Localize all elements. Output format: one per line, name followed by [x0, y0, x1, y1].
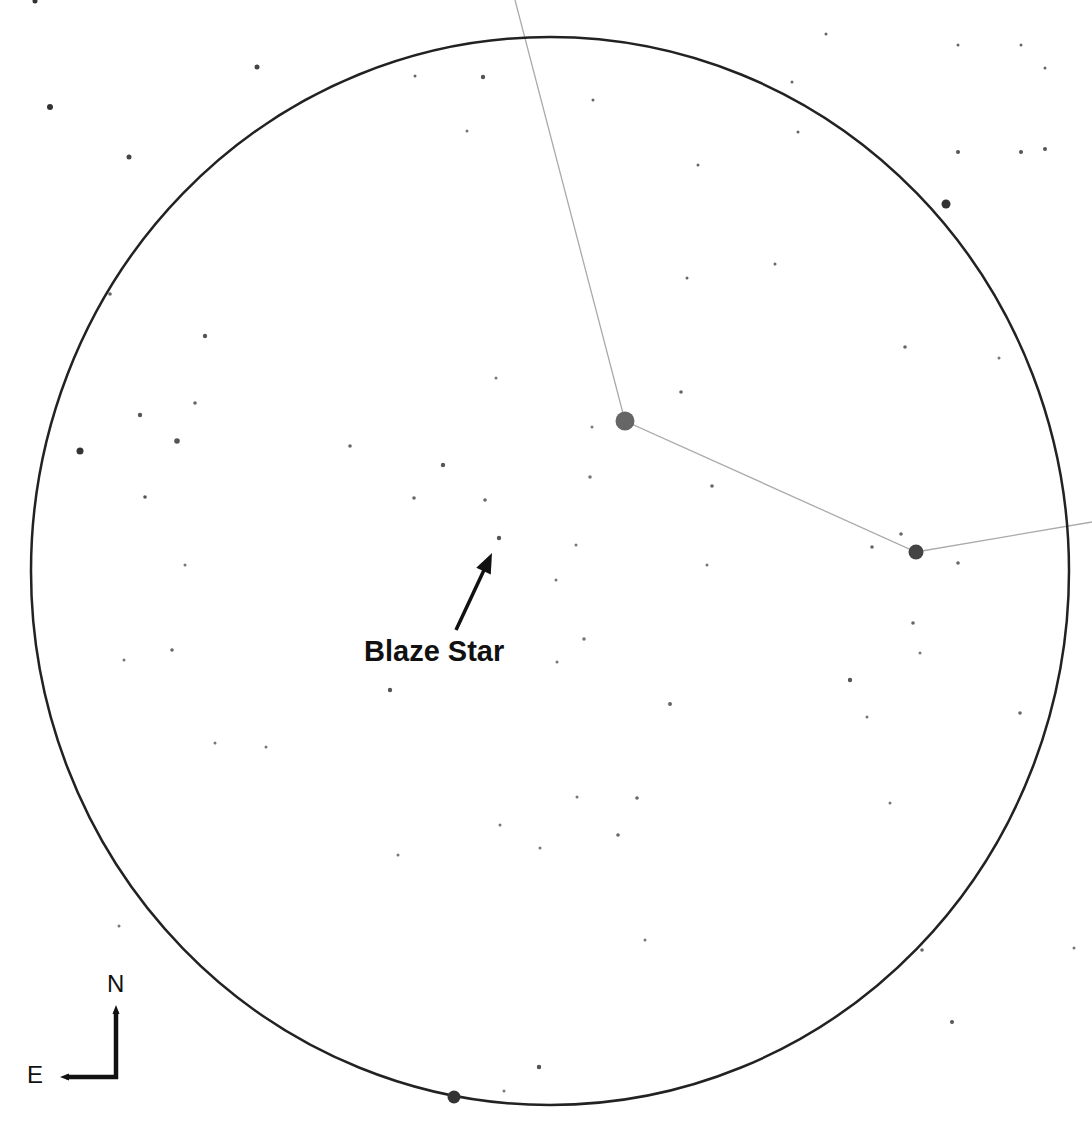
star	[388, 688, 392, 692]
star	[911, 621, 915, 625]
star	[697, 164, 700, 167]
star	[123, 659, 126, 662]
star	[956, 561, 960, 565]
star	[575, 544, 578, 547]
star	[1043, 147, 1047, 151]
bright-star	[616, 412, 635, 431]
star	[555, 579, 558, 582]
star	[950, 1020, 954, 1024]
star	[127, 155, 132, 160]
compass-rose-icon	[60, 1005, 120, 1081]
arrow-head	[476, 553, 492, 575]
star	[644, 939, 647, 942]
star	[539, 847, 542, 850]
star	[1019, 150, 1023, 154]
star	[1073, 947, 1076, 950]
arrow-shaft	[456, 569, 484, 630]
star	[899, 532, 903, 536]
compass-north-arrowhead	[113, 1005, 120, 1014]
star	[203, 334, 207, 338]
star	[903, 345, 907, 349]
star	[870, 545, 874, 549]
compass-east-arrowhead	[60, 1074, 69, 1081]
star	[848, 678, 852, 682]
star	[77, 448, 84, 455]
star	[825, 33, 828, 36]
star	[483, 498, 487, 502]
star	[174, 438, 180, 444]
star	[138, 413, 142, 417]
star	[108, 292, 112, 296]
star	[1044, 67, 1047, 70]
star	[495, 377, 498, 380]
star	[1020, 44, 1023, 47]
star	[582, 637, 586, 641]
star	[668, 702, 672, 706]
star	[193, 401, 197, 405]
star	[499, 824, 502, 827]
star	[184, 564, 187, 567]
star	[591, 426, 594, 429]
star	[503, 1090, 506, 1093]
bright-star	[909, 545, 924, 560]
star	[791, 81, 794, 84]
star	[481, 75, 485, 79]
star	[686, 277, 689, 280]
bright-star	[448, 1091, 461, 1104]
star	[889, 802, 892, 805]
star	[588, 475, 592, 479]
star	[397, 854, 400, 857]
star	[920, 948, 924, 952]
star	[616, 833, 620, 837]
target-arrow-icon	[456, 553, 492, 630]
star	[348, 444, 352, 448]
star	[466, 130, 469, 133]
star	[556, 661, 559, 664]
star	[774, 263, 777, 266]
star	[47, 104, 53, 110]
star	[143, 495, 147, 499]
star	[592, 99, 595, 102]
star	[797, 131, 800, 134]
star	[866, 716, 869, 719]
star	[998, 357, 1001, 360]
star	[170, 648, 174, 652]
field-of-view-circle	[31, 37, 1069, 1105]
star	[537, 1065, 541, 1069]
star	[265, 746, 268, 749]
star	[706, 564, 709, 567]
star	[919, 652, 922, 655]
star	[33, 0, 38, 4]
star	[214, 742, 217, 745]
star-finder-chart	[0, 0, 1092, 1126]
star	[957, 44, 960, 47]
star	[956, 150, 960, 154]
star	[497, 536, 501, 540]
star	[679, 390, 683, 394]
star	[118, 925, 121, 928]
bright-stars	[448, 200, 951, 1104]
compass-north-label: N	[107, 972, 124, 996]
star	[635, 796, 639, 800]
star	[255, 65, 260, 70]
star	[412, 496, 416, 500]
star	[576, 796, 579, 799]
bright-star	[942, 200, 951, 209]
target-star-label: Blaze Star	[364, 637, 504, 666]
constellation-line	[515, 0, 1092, 552]
star	[414, 75, 417, 78]
compass-east-label: E	[27, 1063, 43, 1087]
star	[1018, 711, 1022, 715]
star	[441, 463, 445, 467]
star	[710, 484, 714, 488]
